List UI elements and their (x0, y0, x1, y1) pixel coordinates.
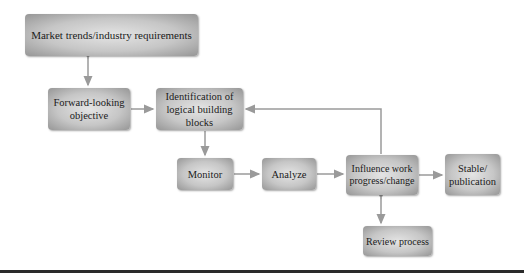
node-analyze: Analyze (262, 158, 316, 190)
node-stable-publication: Stable/ publication (445, 154, 500, 195)
node-forward-looking-objective: Forward-looking objective (48, 88, 130, 130)
node-identification: Identification of logical building block… (156, 88, 243, 130)
node-market-trends: Market trends/industry requirements (25, 14, 198, 56)
node-label: Influence work progress/change (348, 163, 416, 187)
node-label: Market trends/industry requirements (31, 29, 192, 42)
node-label: Stable/ publication (447, 162, 498, 188)
node-label: Monitor (188, 168, 222, 181)
node-influence: Influence work progress/change (346, 155, 418, 195)
node-label: Forward-looking objective (50, 96, 128, 122)
node-review-process: Review process (363, 226, 432, 256)
node-label: Analyze (272, 168, 307, 181)
node-label: Identification of logical building block… (158, 90, 241, 129)
node-monitor: Monitor (177, 158, 233, 190)
edge-influence-identification (246, 109, 381, 154)
node-label: Review process (366, 235, 429, 248)
bottom-rule (0, 270, 524, 273)
